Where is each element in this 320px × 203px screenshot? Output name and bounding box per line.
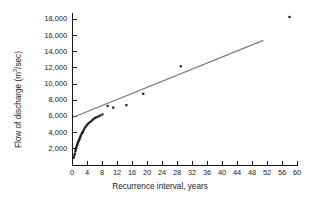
trend-line bbox=[73, 40, 263, 117]
data-point bbox=[99, 115, 101, 117]
y-axis-tick-label: 12,000 bbox=[20, 64, 67, 71]
y-axis-tick-label: 8,000 bbox=[20, 96, 67, 103]
data-point bbox=[107, 105, 109, 107]
data-point bbox=[73, 155, 75, 157]
discharge-recurrence-chart: Flow of discharge (m3/sec) Recurrence in… bbox=[0, 0, 320, 203]
y-axis-tick-label: 16,000 bbox=[20, 32, 67, 39]
data-point bbox=[101, 113, 103, 115]
data-point bbox=[112, 106, 114, 108]
y-axis-title-exponent: 3 bbox=[12, 69, 18, 72]
y-axis-tick-label: 2,000 bbox=[20, 145, 67, 152]
data-point bbox=[180, 65, 182, 67]
y-axis-tick-label: 6,000 bbox=[20, 112, 67, 119]
data-point bbox=[142, 93, 144, 95]
y-axis-tick-label: 10,000 bbox=[20, 80, 67, 87]
data-point bbox=[74, 153, 76, 155]
data-points bbox=[73, 16, 291, 159]
y-axis-tick-label: 14,000 bbox=[20, 48, 67, 55]
y-axis-tick-label: 18,000 bbox=[20, 15, 67, 22]
data-point bbox=[97, 115, 99, 117]
data-point bbox=[288, 16, 290, 18]
x-axis-tick-label: 60 bbox=[285, 169, 309, 176]
data-point bbox=[125, 104, 127, 106]
data-point bbox=[73, 157, 75, 159]
x-axis-title: Recurrence interval, years bbox=[0, 182, 320, 191]
y-axis-tick-label: 4,000 bbox=[20, 129, 67, 136]
data-point bbox=[95, 116, 97, 118]
